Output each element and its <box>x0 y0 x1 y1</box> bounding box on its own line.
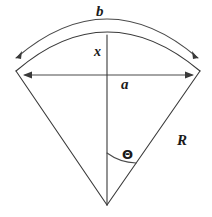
chord-right-arrowhead <box>185 72 194 79</box>
diagram-canvas <box>0 0 212 217</box>
label-arc-b: b <box>96 4 104 19</box>
sector-diagram: b x a R Θ <box>0 0 212 217</box>
left-radius-line <box>16 71 107 205</box>
label-chord-a: a <box>121 77 129 92</box>
label-height-x: x <box>94 45 101 59</box>
outer-arc-right-arrowhead <box>192 51 198 59</box>
chord-left-arrowhead <box>23 72 32 79</box>
outer-arc-left-arrowhead <box>16 51 22 59</box>
label-radius-r: R <box>177 133 187 148</box>
label-angle-theta: Θ <box>122 148 133 161</box>
